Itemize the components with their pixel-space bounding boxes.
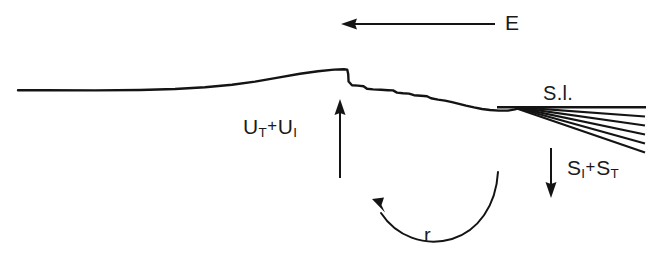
sedimentation-arrow [546,148,557,198]
sedimentation-symbol-2: S [596,156,610,179]
figure-canvas: E UT+UI S.l. SI+ST r [0,0,653,260]
uplift-subscript-2: I [293,125,297,140]
uplift-label: UT+UI [243,116,297,138]
erosion-arrow [341,19,495,30]
sea-level-label: S.l. [543,83,573,103]
sediment-fan [516,107,645,152]
rebound-arc-arrow [372,172,498,242]
uplift-operator: + [267,116,278,135]
rebound-arrowhead [372,198,385,213]
sedimentation-label: SI+ST [567,157,619,179]
cross-section-drawing [0,0,653,260]
rebound-label: r [424,225,431,245]
uplift-symbol-1: U [243,115,258,138]
fan-ray-4 [517,108,645,144]
erosion-label: E [505,12,519,33]
uplift-subscript-1: T [258,125,266,140]
erosion-arrowhead [341,19,357,30]
uplift-symbol-2: U [278,115,293,138]
topography-profile [18,69,520,110]
sedimentation-symbol-1: S [567,156,581,179]
uplift-arrow [335,99,346,178]
sedimentation-arrowhead [546,182,557,198]
sedimentation-subscript-2: T [610,166,618,181]
uplift-arrowhead [335,99,346,115]
sedimentation-operator: + [585,157,596,176]
